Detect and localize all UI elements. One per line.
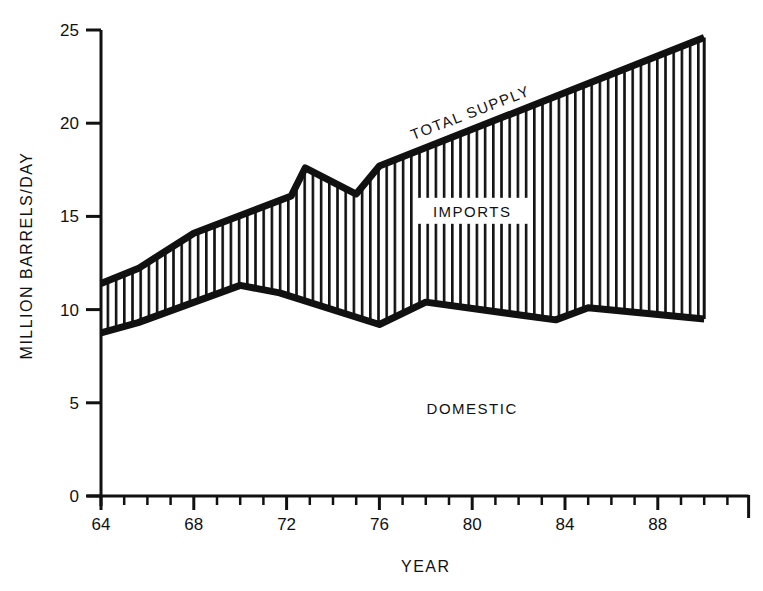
x-axis-title: YEAR <box>401 558 451 575</box>
y-tick-label: 10 <box>60 301 79 320</box>
domestic-label: DOMESTIC <box>427 400 518 417</box>
y-axis-title: MILLION BARRELS/DAY <box>18 152 35 360</box>
imports-label: IMPORTS <box>433 203 512 220</box>
y-tick-label: 0 <box>70 487 79 506</box>
x-tick-label: 88 <box>648 515 667 534</box>
oil-supply-chart: 051015202564687276808488YEARMILLION BARR… <box>0 0 763 591</box>
y-tick-label: 20 <box>60 114 79 133</box>
imports-hatch-region <box>101 37 704 332</box>
x-tick-label: 80 <box>463 515 482 534</box>
x-tick-label: 68 <box>184 515 203 534</box>
y-tick-label: 15 <box>60 207 79 226</box>
x-tick-label: 64 <box>92 515 111 534</box>
imports-area <box>101 37 704 332</box>
x-tick-label: 84 <box>556 515 575 534</box>
y-tick-label: 5 <box>70 394 79 413</box>
y-tick-label: 25 <box>60 21 79 40</box>
x-tick-label: 76 <box>370 515 389 534</box>
x-tick-label: 72 <box>277 515 296 534</box>
